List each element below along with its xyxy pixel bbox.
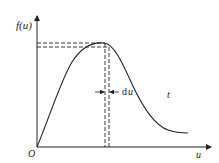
du-label-d: d: [122, 86, 127, 97]
y-axis-label: f(u): [16, 19, 32, 32]
du-label-u: u: [128, 86, 133, 97]
curve-label: t: [167, 89, 170, 100]
distribution-diagram: f(u) O u d u t: [0, 0, 219, 163]
origin-label: O: [28, 148, 35, 159]
x-axis-label: u: [196, 149, 201, 160]
distribution-curve: [37, 43, 188, 147]
